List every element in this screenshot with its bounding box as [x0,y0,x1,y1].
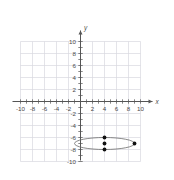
x-axis-label: x [155,98,160,105]
plot-series [75,136,137,152]
x-tick-label: 4 [103,105,107,112]
x-tick-label: 8 [127,105,131,112]
y-tick-label: -8 [70,146,76,153]
y-tick-label: 10 [69,38,76,45]
x-tick-label: -4 [54,105,60,112]
x-tick-label: 10 [137,105,144,112]
data-point [103,136,107,140]
y-tick-label: -10 [67,158,77,165]
x-tick-label: -8 [30,105,36,112]
x-tick-label: 2 [91,105,95,112]
y-tick-label: 6 [73,62,77,69]
graph-canvas: -10-8-6-4-2246810108642-2-4-6-8-10xy [0,0,174,180]
y-axis-label: y [83,24,88,32]
data-point [133,142,137,146]
y-tick-label: 4 [73,74,77,81]
x-tick-label: -10 [16,105,26,112]
y-axis-arrow [79,31,83,35]
data-point [103,148,107,152]
y-tick-label: -2 [70,110,76,117]
y-tick-label: 2 [73,86,77,93]
y-tick-label: 8 [73,50,77,57]
y-tick-label: -6 [70,134,76,141]
x-tick-label: -6 [42,105,48,112]
x-axis-arrow [149,100,153,104]
x-tick-label: 6 [115,105,119,112]
coordinate-graph: -10-8-6-4-2246810108642-2-4-6-8-10xy [0,0,174,180]
y-tick-label: -4 [70,122,76,129]
data-point [103,142,107,146]
